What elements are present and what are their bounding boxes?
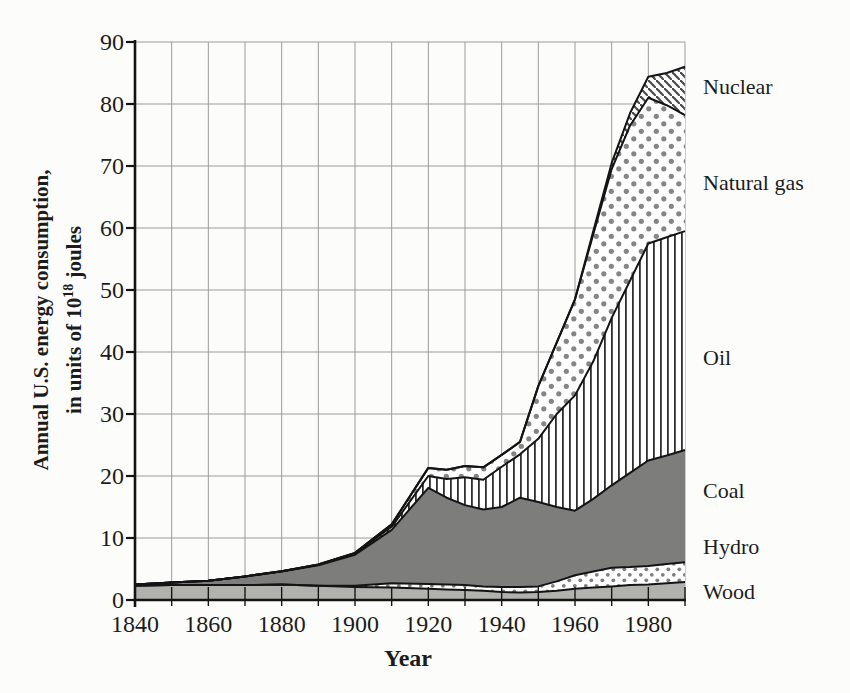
band-label-hydro: Hydro (703, 534, 759, 560)
y-tick-label: 0 (68, 587, 124, 613)
y-axis-title: Annual U.S. energy consumption, in units… (27, 140, 85, 500)
y-axis-title-line1: Annual U.S. energy consumption, (29, 169, 53, 470)
y-tick-label: 10 (68, 525, 124, 551)
band-label-natural-gas: Natural gas (703, 170, 804, 196)
band-label-coal: Coal (703, 478, 745, 504)
y-tick-label: 40 (68, 339, 124, 365)
y-tick-label: 90 (68, 29, 124, 55)
x-axis-title: Year (358, 645, 458, 672)
y-tick-label: 80 (68, 91, 124, 117)
y-tick-label: 70 (68, 153, 124, 179)
y-tick-label: 30 (68, 401, 124, 427)
band-label-wood: Wood (703, 579, 755, 605)
x-tick-label: 1980 (603, 611, 693, 637)
energy-consumption-figure: Annual U.S. energy consumption, in units… (0, 0, 850, 693)
y-tick-label: 60 (68, 215, 124, 241)
y-tick-label: 20 (68, 463, 124, 489)
y-tick-label: 50 (68, 277, 124, 303)
band-label-oil: Oil (703, 345, 731, 371)
band-label-nuclear: Nuclear (703, 74, 773, 100)
